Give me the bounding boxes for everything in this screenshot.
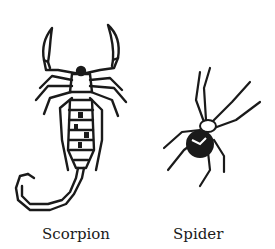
scorpion-icon [0, 0, 150, 220]
scorpion-label: Scorpion [42, 225, 110, 243]
scorpion-illustration [0, 0, 150, 220]
spider-illustration [150, 60, 275, 200]
spider-icon [150, 60, 275, 200]
spider-label: Spider [173, 225, 223, 243]
